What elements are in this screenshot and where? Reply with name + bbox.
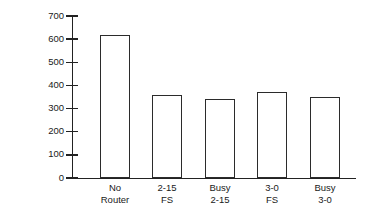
bar	[257, 92, 287, 178]
x-axis-category-label-line: Busy	[290, 182, 360, 194]
bar-chart: Throughput: KB/Sec. 01002003004005006007…	[0, 0, 366, 215]
x-axis-category-label: Busy3-0	[290, 182, 360, 205]
x-axis-category-label-line: 3-0	[290, 194, 360, 206]
bar	[205, 99, 235, 178]
x-axis-line	[71, 178, 356, 179]
bars-layer	[0, 16, 366, 178]
bar	[152, 95, 182, 178]
bar	[100, 35, 130, 178]
bar	[310, 97, 340, 178]
